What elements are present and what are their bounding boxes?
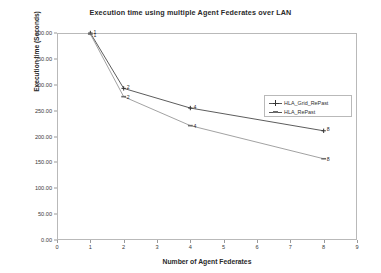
data-point-label: 4 — [194, 123, 197, 129]
x-tick-label: 4 — [182, 244, 198, 250]
data-point-label: 4 — [194, 104, 197, 110]
y-tick-label: 150.00 — [14, 159, 52, 165]
legend-item-series-1: HLA_Grid_RePast — [269, 99, 351, 107]
x-tick-label: 3 — [149, 244, 165, 250]
x-tick-mark — [257, 240, 258, 243]
x-tick-mark — [357, 240, 358, 243]
plot-area — [57, 33, 357, 240]
x-tick-mark — [190, 240, 191, 243]
chart-container: Execution time using multiple Agent Fede… — [0, 0, 381, 273]
legend-item-series-2: HLA_RePast — [269, 108, 351, 116]
y-tick-label: 0.00 — [14, 237, 52, 243]
data-point-label: 8 — [327, 156, 330, 162]
x-tick-label: 2 — [116, 244, 132, 250]
x-tick-mark — [90, 240, 91, 243]
y-tick-label: 100.00 — [14, 185, 52, 191]
y-tick-label: 250.00 — [14, 108, 52, 114]
y-tick-label: 300.00 — [14, 82, 52, 88]
data-point-label: 2 — [127, 94, 130, 100]
data-point-label: 1 — [94, 32, 97, 38]
x-tick-label: 9 — [349, 244, 365, 250]
x-tick-label: 6 — [249, 244, 265, 250]
chart-legend: HLA_Grid_RePast HLA_RePast — [264, 95, 352, 117]
y-tick-label: 350.00 — [14, 56, 52, 62]
x-tick-label: 1 — [82, 244, 98, 250]
x-tick-label: 0 — [49, 244, 65, 250]
x-tick-label: 8 — [316, 244, 332, 250]
x-tick-mark — [124, 240, 125, 243]
legend-label-series-1: HLA_Grid_RePast — [284, 100, 328, 106]
y-tick-label: 50.00 — [14, 211, 52, 217]
chart-title: Execution time using multiple Agent Fede… — [0, 8, 381, 17]
x-axis-label: Number of Agent Federates — [57, 258, 357, 265]
x-tick-mark — [57, 240, 58, 243]
x-tick-mark — [324, 240, 325, 243]
x-tick-label: 5 — [216, 244, 232, 250]
x-tick-label: 7 — [282, 244, 298, 250]
x-tick-mark — [157, 240, 158, 243]
dash-marker-icon — [269, 108, 282, 116]
y-tick-label: 200.00 — [14, 134, 52, 140]
y-tick-label: 400.00 — [14, 30, 52, 36]
data-point-label: 8 — [327, 126, 330, 132]
legend-label-series-2: HLA_RePast — [284, 109, 315, 115]
plus-marker-icon — [269, 99, 282, 107]
data-point-label: 2 — [127, 84, 130, 90]
x-tick-mark — [290, 240, 291, 243]
x-tick-mark — [224, 240, 225, 243]
